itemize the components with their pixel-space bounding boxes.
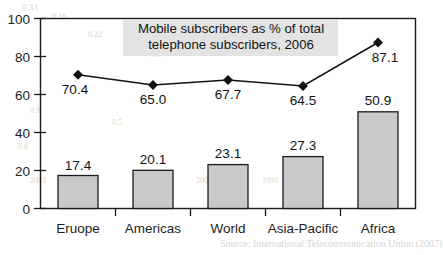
y-tick-label: 40 bbox=[15, 126, 30, 141]
bar bbox=[208, 165, 248, 209]
bar bbox=[358, 112, 398, 209]
bar bbox=[133, 170, 173, 208]
bar-value-labels: 17.4 20.1 23.1 27.3 50.9 bbox=[65, 93, 391, 173]
line-value-label: 67.7 bbox=[215, 87, 241, 102]
bar-value-label: 23.1 bbox=[215, 146, 241, 161]
chart-plot: 100 80 60 40 20 0 17.4 20.1 23.1 27 bbox=[0, 0, 443, 255]
bar-value-label: 17.4 bbox=[65, 158, 92, 173]
diamond-marker bbox=[148, 80, 158, 90]
x-category-label: World bbox=[210, 221, 245, 236]
x-category-label: Eruope bbox=[56, 221, 100, 236]
diamond-marker bbox=[223, 75, 233, 85]
y-tick-label: 0 bbox=[22, 202, 30, 217]
y-axis-labels: 100 80 60 40 20 0 bbox=[7, 12, 30, 217]
y-tick-label: 100 bbox=[7, 12, 30, 27]
bar-value-label: 50.9 bbox=[365, 93, 391, 108]
line-value-label: 87.1 bbox=[372, 50, 398, 65]
chart-title-line2: telephone subscribers, 2006 bbox=[148, 37, 314, 52]
bar-value-label: 27.3 bbox=[290, 138, 316, 153]
line-value-label: 64.5 bbox=[290, 93, 316, 108]
line-value-label: 65.0 bbox=[140, 92, 166, 107]
x-axis-labels: Eruope Americas World Asia-Pacific Afric… bbox=[56, 221, 396, 236]
x-category-label: Americas bbox=[125, 221, 182, 236]
chart-title-line1: Mobile subscribers as % of total bbox=[138, 21, 324, 36]
y-tick-label: 60 bbox=[15, 88, 30, 103]
bar-value-label: 20.1 bbox=[140, 152, 166, 167]
y-tick-label: 80 bbox=[15, 50, 30, 65]
x-axis-ticks bbox=[116, 209, 341, 217]
chart-container: 0.33 0.18 0.22 0.17 0.9 0.8 0.5 2005 200… bbox=[0, 0, 443, 255]
y-tick-label: 20 bbox=[15, 164, 30, 179]
diamond-marker bbox=[373, 38, 383, 48]
line-value-label: 70.4 bbox=[62, 82, 89, 97]
diamond-marker bbox=[73, 70, 83, 80]
bar bbox=[58, 176, 98, 209]
bar bbox=[283, 157, 323, 209]
x-category-label: Africa bbox=[361, 221, 396, 236]
diamond-marker bbox=[298, 81, 308, 91]
x-category-label: Asia-Pacific bbox=[268, 221, 339, 236]
